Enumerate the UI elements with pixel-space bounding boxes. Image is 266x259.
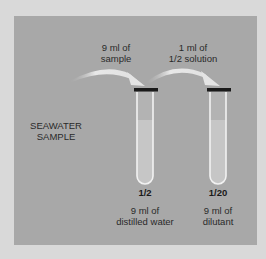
transfer-label-2: 1 ml of 1/2 solution [168, 42, 218, 64]
tube-cap-1 [134, 88, 158, 92]
transfer-label-1-line2: sample [96, 53, 136, 64]
seawater-sample-line2: SAMPLE [30, 131, 82, 142]
tube-1-contents-line2: distilled water [110, 216, 180, 227]
tube-liquid-2 [210, 120, 226, 184]
tube-liquid-1 [137, 120, 153, 184]
transfer-label-2-line2: 1/2 solution [168, 53, 218, 64]
transfer-arrow-1-icon [70, 69, 145, 86]
seawater-sample-line1: SEAWATER [30, 120, 82, 131]
tube-1-contents: 9 ml of distilled water [110, 205, 180, 227]
transfer-arrow-2-icon [146, 69, 220, 86]
tube-cap-2 [207, 88, 231, 92]
transfer-label-1-line1: 9 ml of [96, 42, 136, 53]
tube-1-contents-line1: 9 ml of [110, 205, 180, 216]
test-tube-1 [134, 88, 158, 184]
transfer-label-1: 9 ml of sample [96, 42, 136, 64]
transfer-label-2-line1: 1 ml of [168, 42, 218, 53]
tube-2-dilution: 1/20 [198, 187, 238, 198]
tube-2-contents-line1: 9 ml of [188, 205, 248, 216]
tube-1-dilution: 1/2 [125, 187, 165, 198]
seawater-sample-label: SEAWATER SAMPLE [30, 120, 82, 142]
test-tube-2 [207, 88, 231, 184]
tube-2-contents: 9 ml of dilutant [188, 205, 248, 227]
tube-2-contents-line2: dilutant [188, 216, 248, 227]
